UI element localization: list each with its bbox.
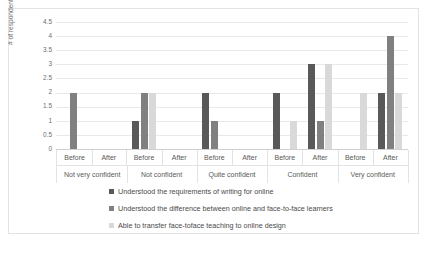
legend-item: Understood the difference between online… [9, 204, 420, 213]
legend-item: Understood the requirements of writing f… [9, 187, 420, 196]
bar [149, 93, 156, 149]
y-axis-tick-label: 3.5 [12, 47, 52, 53]
x-axis-tick-label: After [302, 150, 338, 165]
bar [395, 93, 402, 149]
bar [70, 93, 77, 149]
bar [308, 64, 315, 149]
legend-swatch-icon [109, 223, 114, 228]
bar [360, 93, 367, 149]
x-axis-tick-label: Before [126, 150, 162, 165]
x-axis-tick-label: After [91, 150, 127, 165]
x-axis-tick-label: After [162, 150, 198, 165]
y-axis-tick-label: 3 [12, 61, 52, 67]
legend-swatch-icon [109, 189, 114, 194]
bar [211, 121, 218, 149]
bar [378, 93, 385, 149]
legend-item-label: Understood the requirements of writing f… [118, 187, 273, 196]
x-axis-group-label: Quite confident [197, 165, 268, 183]
bar [273, 93, 280, 149]
y-axis-tick-label: 1.5 [12, 103, 52, 109]
bar [290, 121, 297, 149]
x-axis-tick-label: Before [338, 150, 374, 165]
y-axis-tick-label: 1 [12, 118, 52, 124]
legend-swatch-icon [109, 206, 114, 211]
y-axis-tick-label: 0 [12, 146, 52, 152]
bar [317, 121, 324, 149]
bar [132, 121, 139, 149]
legend-item-label: Understood the difference between online… [118, 204, 333, 213]
x-axis-group-label: Not very confident [56, 165, 128, 183]
bar [387, 36, 394, 149]
y-axis-tick-label: 2 [12, 89, 52, 95]
x-axis-group-label: Confident [267, 165, 338, 183]
bars-layer [56, 22, 408, 149]
x-axis-group-label: Not confident [126, 165, 197, 183]
x-axis-tick-label: After [232, 150, 268, 165]
y-axis-tick-label: 0.5 [12, 132, 52, 138]
x-axis-tick-label: After [373, 150, 409, 165]
legend-item-label: Able to transfer face-toface teaching to… [118, 221, 286, 230]
category-axis: BeforeAfterBeforeAfterBeforeAfterBeforeA… [56, 150, 408, 182]
bar [325, 64, 332, 149]
legend-item: Able to transfer face-toface teaching to… [9, 221, 420, 230]
x-axis-tick-label: Before [56, 150, 93, 165]
chart-frame: # of respondents 00.511.522.533.544.5 Be… [8, 8, 419, 234]
chart-legend: Understood the requirements of writing f… [9, 187, 420, 238]
bar [141, 93, 148, 149]
x-axis-group-label: Very confident [338, 165, 409, 183]
x-axis-tick-label: Before [267, 150, 303, 165]
y-axis-tick-label: 2.5 [12, 75, 52, 81]
bar [202, 93, 209, 149]
y-axis-tick-label: 4.5 [12, 19, 52, 25]
y-axis-tick-label: 4 [12, 33, 52, 39]
x-axis-tick-label: Before [197, 150, 233, 165]
